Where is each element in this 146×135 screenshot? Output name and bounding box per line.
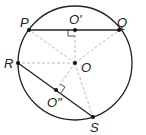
right-angle-mark-o2 bbox=[60, 84, 65, 93]
label-r: R bbox=[4, 56, 13, 71]
circle-chord-diagram: P Q R S O O' O" bbox=[0, 0, 146, 135]
label-o: O bbox=[81, 60, 91, 75]
label-q: Q bbox=[117, 15, 127, 30]
label-o-double-prime: O" bbox=[47, 95, 63, 110]
label-s: S bbox=[90, 120, 99, 135]
label-p: P bbox=[20, 15, 29, 30]
label-o-prime: O' bbox=[69, 12, 82, 27]
